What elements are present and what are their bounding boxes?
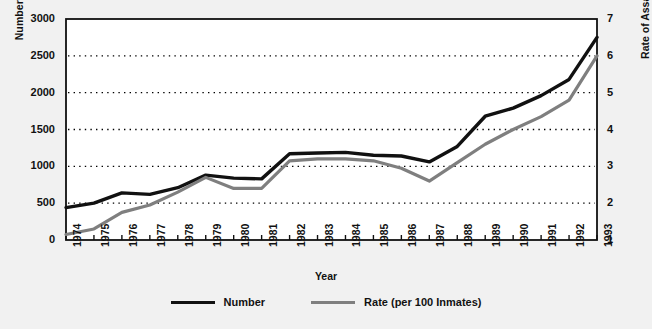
y-axis-left-tick-label: 2500 — [0, 49, 55, 61]
x-axis-tick-label: 1982 — [295, 224, 307, 247]
x-axis-tick-label: 1979 — [211, 224, 223, 247]
x-axis-tick-label: 1992 — [574, 224, 586, 247]
y-axis-left-tick-label: 3000 — [0, 12, 55, 24]
y-axis-right-tick-label: 3 — [607, 159, 613, 171]
y-axis-right-tick-label: 6 — [607, 49, 613, 61]
x-axis-tick-label: 1989 — [490, 224, 502, 247]
legend-item: Rate (per 100 Inmates) — [311, 296, 481, 308]
x-axis-tick-label: 1978 — [183, 224, 195, 247]
x-axis-tick-label: 1977 — [155, 224, 167, 247]
y-axis-left-tick-label: 1500 — [0, 123, 55, 135]
y-axis-right-tick-label: 4 — [607, 123, 613, 135]
x-axis-tick-label: 1974 — [71, 224, 83, 247]
x-axis-tick-label: 1975 — [99, 224, 111, 247]
x-axis-tick-label: 1983 — [323, 224, 335, 247]
y-axis-right-tick-label: 2 — [607, 196, 613, 208]
x-axis-tick-label: 1981 — [267, 224, 279, 247]
legend-line-icon — [171, 301, 215, 304]
x-axis-tick-label: 1991 — [546, 224, 558, 247]
chart-figure: Number of Assaults Rate of Assaults Year… — [0, 0, 652, 329]
x-axis-tick-label: 1976 — [127, 224, 139, 247]
y-axis-left-tick-label: 500 — [0, 196, 55, 208]
x-axis-tick-label: 1986 — [406, 224, 418, 247]
x-axis-tick-label: 1990 — [518, 224, 530, 247]
x-axis-tick-label: 1988 — [462, 224, 474, 247]
legend-item: Number — [171, 296, 266, 308]
x-axis-tick-label: 1980 — [239, 224, 251, 247]
x-axis-tick-label: 1993 — [602, 224, 614, 247]
x-axis-tick-label: 1985 — [378, 224, 390, 247]
legend-label: Rate (per 100 Inmates) — [364, 296, 481, 308]
y-axis-left-tick-label: 2000 — [0, 86, 55, 98]
x-axis-tick-label: 1987 — [434, 224, 446, 247]
y-axis-right-tick-label: 7 — [607, 12, 613, 24]
x-axis-tick-label: 1984 — [350, 224, 362, 247]
legend-line-icon — [311, 301, 355, 304]
chart-plot-area — [0, 0, 652, 329]
y-axis-left-tick-label: 0 — [0, 233, 55, 245]
chart-legend: NumberRate (per 100 Inmates) — [0, 296, 652, 308]
legend-label: Number — [224, 296, 266, 308]
y-axis-left-tick-label: 1000 — [0, 159, 55, 171]
y-axis-right-tick-label: 5 — [607, 86, 613, 98]
